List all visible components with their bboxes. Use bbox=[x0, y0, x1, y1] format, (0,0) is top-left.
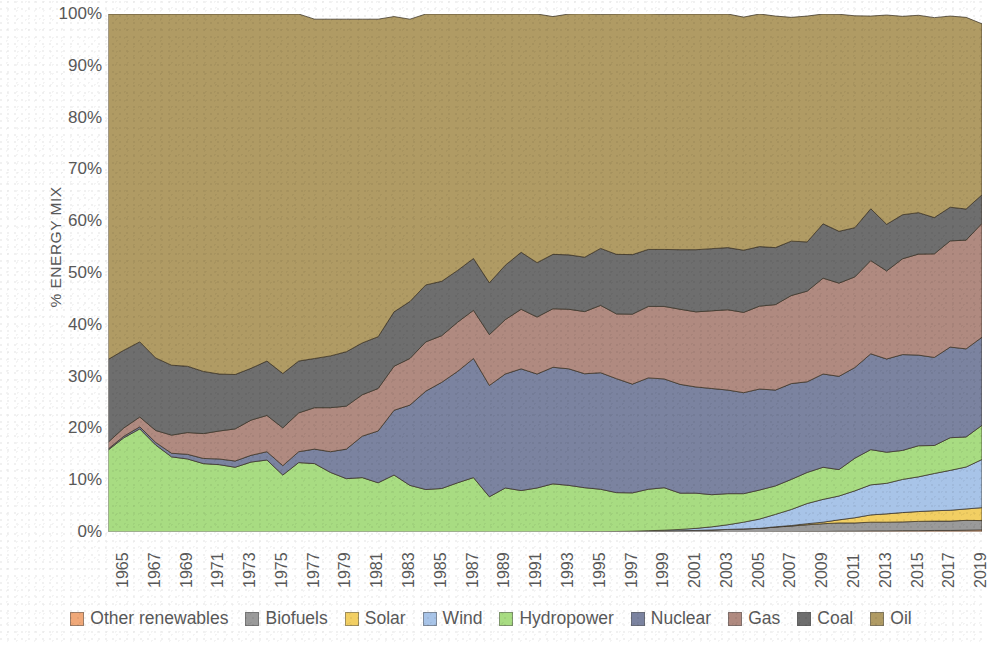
x-axis-tick-label: 1991 bbox=[527, 552, 545, 588]
x-axis-tick-label: 1995 bbox=[591, 552, 609, 588]
y-axis-tick-label: 100% bbox=[36, 4, 102, 24]
x-axis-tick-label: 2017 bbox=[940, 552, 958, 588]
legend-swatch-icon bbox=[70, 612, 84, 626]
legend-item-other-renewables[interactable]: Other renewables bbox=[70, 608, 228, 629]
legend-label: Hydropower bbox=[519, 608, 613, 629]
legend-label: Solar bbox=[365, 608, 406, 629]
x-axis-tick-label: 1969 bbox=[178, 552, 196, 588]
legend-label: Gas bbox=[748, 608, 780, 629]
legend-item-hydropower[interactable]: Hydropower bbox=[499, 608, 613, 629]
legend-label: Nuclear bbox=[651, 608, 711, 629]
legend-swatch-icon bbox=[728, 612, 742, 626]
x-axis-tick-label: 1997 bbox=[623, 552, 641, 588]
x-axis-tick-label: 1971 bbox=[209, 552, 227, 588]
legend-item-coal[interactable]: Coal bbox=[797, 608, 853, 629]
legend-item-wind[interactable]: Wind bbox=[423, 608, 483, 629]
x-axis-tick-label: 2019 bbox=[972, 552, 990, 588]
x-axis-tick-label: 1983 bbox=[400, 552, 418, 588]
x-axis-tick-label: 1979 bbox=[336, 552, 354, 588]
x-axis-tick-label: 1989 bbox=[495, 552, 513, 588]
x-axis-tick-label: 1973 bbox=[241, 552, 259, 588]
y-axis-tick-label: 90% bbox=[36, 56, 102, 76]
legend-swatch-icon bbox=[499, 612, 513, 626]
x-axis-tick-label: 2011 bbox=[845, 554, 863, 588]
x-axis-tick-label: 1993 bbox=[559, 552, 577, 588]
y-axis-tick-label: 80% bbox=[36, 108, 102, 128]
x-axis-tick-label: 2005 bbox=[750, 552, 768, 588]
y-axis-tick-label: 70% bbox=[36, 159, 102, 179]
x-axis-tick-label: 2013 bbox=[877, 552, 895, 588]
y-axis: % ENERGY MIX 0%10%20%30%40%50%60%70%80%9… bbox=[28, 0, 102, 560]
x-axis-tick-label: 1965 bbox=[114, 552, 132, 588]
legend-swatch-icon bbox=[631, 612, 645, 626]
legend-item-gas[interactable]: Gas bbox=[728, 608, 780, 629]
plot-area bbox=[108, 14, 982, 532]
x-axis-tick-label: 2007 bbox=[781, 552, 799, 588]
y-axis-tick-label: 10% bbox=[36, 470, 102, 490]
legend-swatch-icon bbox=[797, 612, 811, 626]
legend-label: Wind bbox=[443, 608, 483, 629]
x-axis-tick-label: 1977 bbox=[305, 552, 323, 588]
x-axis-tick-label: 1999 bbox=[654, 552, 672, 588]
y-axis-tick-label: 0% bbox=[36, 522, 102, 542]
x-axis-tick-label: 2009 bbox=[813, 552, 831, 588]
y-axis-tick-label: 60% bbox=[36, 211, 102, 231]
legend-item-solar[interactable]: Solar bbox=[345, 608, 406, 629]
x-axis-tick-label: 1981 bbox=[368, 552, 386, 588]
legend-swatch-icon bbox=[345, 612, 359, 626]
legend-item-oil[interactable]: Oil bbox=[870, 608, 911, 629]
x-axis-tick-label: 2001 bbox=[686, 552, 704, 588]
y-axis-tick-label: 30% bbox=[36, 367, 102, 387]
chart-legend: Other renewablesBiofuelsSolarWindHydropo… bbox=[0, 608, 982, 629]
y-axis-tick-label: 20% bbox=[36, 418, 102, 438]
legend-label: Biofuels bbox=[265, 608, 327, 629]
y-axis-tick-label: 50% bbox=[36, 263, 102, 283]
y-axis-title: % ENERGY MIX bbox=[47, 167, 65, 327]
y-axis-tick-label: 40% bbox=[36, 315, 102, 335]
legend-item-biofuels[interactable]: Biofuels bbox=[245, 608, 327, 629]
legend-swatch-icon bbox=[423, 612, 437, 626]
x-axis-tick-label: 1985 bbox=[432, 552, 450, 588]
x-axis-tick-label: 1967 bbox=[146, 552, 164, 588]
x-axis-tick-label: 2003 bbox=[718, 552, 736, 588]
legend-swatch-icon bbox=[870, 612, 884, 626]
x-axis-tick-label: 1975 bbox=[273, 552, 291, 588]
legend-label: Coal bbox=[817, 608, 853, 629]
legend-item-nuclear[interactable]: Nuclear bbox=[631, 608, 711, 629]
legend-swatch-icon bbox=[245, 612, 259, 626]
x-axis-tick-label: 1987 bbox=[464, 552, 482, 588]
legend-label: Other renewables bbox=[90, 608, 228, 629]
x-axis-tick-label: 2015 bbox=[909, 552, 927, 588]
legend-label: Oil bbox=[890, 608, 911, 629]
